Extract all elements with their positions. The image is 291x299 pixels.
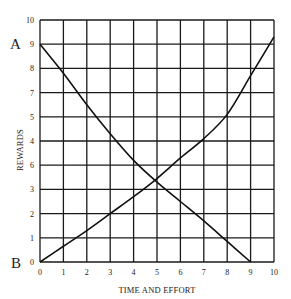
x-tick-label: 8 xyxy=(225,268,229,277)
x-tick-label: 0 xyxy=(38,268,42,277)
point-b-label: B xyxy=(11,255,21,271)
x-axis-title: TIME AND EFFORT xyxy=(118,285,196,295)
y-axis-ticks: 109875463210 xyxy=(26,16,34,267)
x-tick-label: 9 xyxy=(249,268,253,277)
y-axis-title: REWARDS xyxy=(15,129,25,171)
x-tick-label: 1 xyxy=(61,268,65,277)
x-tick-label: 3 xyxy=(108,268,112,277)
y-tick-label: 3 xyxy=(30,185,34,194)
y-tick-label: 4 xyxy=(30,137,34,146)
x-tick-label: 2 xyxy=(85,268,89,277)
x-tick-label: 4 xyxy=(132,268,136,277)
x-tick-label: 10 xyxy=(270,268,278,277)
y-tick-label: 10 xyxy=(26,16,34,25)
point-a-label: A xyxy=(10,36,21,52)
y-tick-label: 9 xyxy=(30,40,34,49)
y-tick-label: 8 xyxy=(30,64,34,73)
x-tick-label: 6 xyxy=(178,268,182,277)
y-tick-label: 2 xyxy=(30,210,34,219)
decreasing-curve xyxy=(40,44,251,262)
y-tick-label: 5 xyxy=(30,113,34,122)
chart-grid xyxy=(40,20,274,262)
x-tick-label: 7 xyxy=(202,268,206,277)
y-tick-label: 0 xyxy=(30,258,34,267)
rewards-vs-effort-chart: 109875463210 012345678910 A B REWARDS TI… xyxy=(0,0,291,299)
y-tick-label: 1 xyxy=(30,234,34,243)
x-axis-ticks: 012345678910 xyxy=(38,268,278,277)
y-tick-label: 7 xyxy=(30,89,34,98)
y-tick-label: 6 xyxy=(30,161,34,170)
x-tick-label: 5 xyxy=(155,268,159,277)
